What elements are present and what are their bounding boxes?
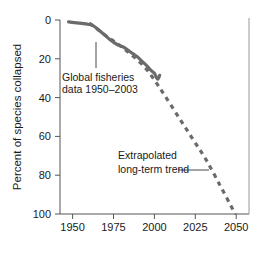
fisheries-collapse-line-chart: 0 20 40 60 80 100 Percent of species col… [0, 0, 270, 256]
x-tick-label-1950: 1950 [60, 221, 84, 233]
y-tick-label-20: 20 [39, 53, 51, 65]
y-axis-ticks [55, 20, 60, 214]
annotation-observed: Global fisheries data 1950–2003 [62, 71, 138, 95]
x-axis-ticks [73, 214, 237, 219]
y-tick-label-60: 60 [39, 130, 51, 142]
x-tick-label-2000: 2000 [142, 221, 166, 233]
y-axis-tick-labels: 0 20 40 60 80 100 [33, 14, 51, 220]
x-tick-label-2025: 2025 [183, 221, 207, 233]
chart-figure: 0 20 40 60 80 100 Percent of species col… [0, 0, 270, 256]
annotation-observed-line1: Global fisheries [62, 71, 134, 83]
y-tick-label-100: 100 [33, 208, 51, 220]
annotation-observed-line2: data 1950–2003 [62, 83, 138, 95]
series-line-extrapolated [89, 23, 235, 214]
annotation-extrapolated: Extrapolated long-term trend [118, 149, 189, 175]
x-tick-label-2050: 2050 [224, 221, 248, 233]
annotation-extrapolated-line1: Extrapolated [118, 149, 177, 161]
annotation-extrapolated-line2: long-term trend [118, 163, 189, 175]
y-axis-title: Percent of species collapsed [11, 44, 23, 190]
y-tick-label-80: 80 [39, 169, 51, 181]
y-tick-label-0: 0 [45, 14, 51, 26]
x-tick-label-1975: 1975 [101, 221, 125, 233]
y-tick-label-40: 40 [39, 92, 51, 104]
x-axis-tick-labels: 1950 1975 2000 2025 2050 [60, 221, 248, 233]
